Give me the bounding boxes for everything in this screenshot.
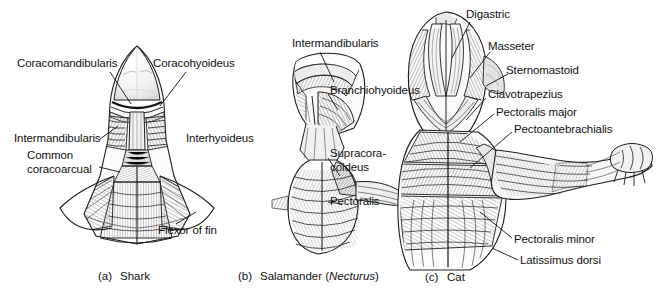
cat-leader-lines xyxy=(452,22,518,260)
caption-shark: (a)Shark xyxy=(98,270,150,282)
label-supracoracoideus-line1: Supracora- xyxy=(330,147,386,160)
leader-sternomastoid xyxy=(486,74,508,86)
label-intermandibularis-shark: Intermandibularis xyxy=(14,132,101,145)
shark-leader-lines xyxy=(99,72,196,224)
leader-intermandibularis-sal xyxy=(320,52,334,82)
caption-text-salamander-genus: Necturus xyxy=(329,270,375,282)
caption-tag-a: (a) xyxy=(98,270,120,282)
caption-cat: (c)Cat xyxy=(425,271,465,283)
label-pectoralis-major: Pectoralis major xyxy=(496,106,577,119)
salamander-leader-lines xyxy=(320,52,342,204)
leader-coracomandibularis xyxy=(110,72,131,104)
label-sternomastoid: Sternomastoid xyxy=(506,64,579,77)
caption-text-salamander-prefix: Salamander ( xyxy=(260,270,329,282)
label-pectoantebrachialis: Pectoantebrachialis xyxy=(514,123,612,136)
caption-text-salamander-suffix: ) xyxy=(375,270,379,282)
leader-masseter xyxy=(470,52,490,78)
caption-tag-c: (c) xyxy=(425,271,447,283)
label-interhyoideus: Interhyoideus xyxy=(186,132,254,145)
leader-pectoantebrachialis xyxy=(470,132,512,168)
leader-intermandibularis xyxy=(100,126,118,139)
leader-digastric xyxy=(452,22,470,58)
shark-illustration xyxy=(60,46,214,244)
label-latissimus-dorsi: Latissimus dorsi xyxy=(520,254,601,267)
caption-tag-b: (b) xyxy=(238,270,260,282)
leader-clavotrapezius xyxy=(466,98,486,120)
label-clavotrapezius: Clavotrapezius xyxy=(488,88,563,101)
leader-common-coracoarcual xyxy=(99,167,120,172)
caption-text-shark: Shark xyxy=(120,270,150,282)
label-intermandibularis-salamander: Intermandibularis xyxy=(292,37,379,50)
caption-text-cat: Cat xyxy=(447,271,465,283)
label-flexor-of-fin: Flexor of fin xyxy=(158,224,217,237)
comparative-anatomy-figure: Coracomandibularis Coracohyoideus Interm… xyxy=(0,0,663,297)
label-coracohyoideus: Coracohyoideus xyxy=(153,57,235,70)
label-masseter: Masseter xyxy=(488,40,535,53)
leader-flexor-of-fin xyxy=(176,212,196,224)
label-supracoracoideus-line2: coideus xyxy=(330,161,369,174)
leader-pectoralis-minor xyxy=(480,212,512,238)
label-pectoralis-minor: Pectoralis minor xyxy=(514,233,595,246)
label-digastric: Digastric xyxy=(466,8,510,21)
label-common-coracoarcual-line1: Common xyxy=(27,149,73,162)
label-branchiohyoideus: Branchiohyoideus xyxy=(330,84,420,97)
leader-latissimus-dorsi xyxy=(492,248,518,260)
leader-coracohyoideus xyxy=(160,72,186,106)
label-common-coracoarcual-line2: coracoarcual xyxy=(27,163,92,176)
leader-pectoralis-major xyxy=(460,114,494,142)
caption-salamander: (b)Salamander (Necturus) xyxy=(238,270,379,282)
label-pectoralis-salamander: Pectoralis xyxy=(330,195,380,208)
label-coracomandibularis: Coracomandibularis xyxy=(17,57,117,70)
